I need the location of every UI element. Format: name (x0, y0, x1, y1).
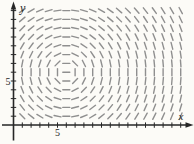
slope-mark (110, 78, 111, 85)
slope-mark (82, 78, 85, 84)
y-axis-arrow-icon (11, 2, 16, 10)
slope-mark (126, 25, 130, 31)
slope-mark (135, 25, 139, 31)
slope-mark (127, 78, 128, 85)
slope-mark (90, 43, 95, 48)
slope-mark (162, 113, 165, 119)
slope-mark (145, 78, 146, 85)
slope-mark (144, 95, 146, 102)
slope-mark (109, 87, 112, 94)
slope-mark (81, 87, 86, 92)
slope-mark (81, 52, 86, 57)
slope-mark (179, 25, 182, 32)
slope-mark (47, 60, 50, 66)
slope-mark (81, 18, 88, 20)
slope-mark (163, 78, 164, 85)
slope-mark (30, 60, 32, 67)
slope-mark (153, 25, 156, 31)
slope-mark (172, 78, 173, 85)
slope-mark (109, 96, 113, 102)
slope-mark (125, 8, 130, 13)
y-tick-label-5: 5 (6, 76, 11, 87)
slope-mark (46, 52, 51, 57)
slope-mark (135, 34, 138, 40)
slope-mark (153, 16, 157, 22)
slope-mark (90, 114, 96, 118)
slope-mark (135, 104, 138, 110)
direction-field-figure: y x 5 5 (0, 0, 194, 144)
slope-mark (180, 60, 181, 67)
slope-mark (72, 116, 79, 117)
slope-mark (126, 17, 131, 22)
y-axis-label: y (19, 1, 26, 15)
slope-mark (101, 78, 103, 85)
slope-mark (81, 35, 87, 38)
slope-mark (162, 95, 164, 102)
slope-mark (81, 10, 88, 12)
slope-mark (72, 45, 79, 47)
slope-mark (37, 35, 43, 39)
slope-mark (171, 34, 173, 41)
slope-mark (92, 78, 94, 85)
slope-mark (22, 60, 23, 67)
slope-mark (54, 88, 60, 91)
slope-mark (99, 105, 104, 110)
slope-mark (135, 17, 139, 23)
slope-mark (171, 25, 174, 31)
slope-mark (47, 78, 50, 84)
slope-mark (144, 34, 147, 40)
slope-mark (143, 8, 147, 14)
slope-mark (153, 34, 156, 41)
slope-mark (37, 114, 43, 118)
slope-mark (119, 60, 120, 67)
slope-mark (161, 16, 164, 22)
slope-mark (54, 28, 61, 29)
slope-mark (54, 107, 61, 109)
slope-mark (72, 28, 79, 29)
slope-mark (152, 8, 156, 14)
slope-mark (21, 96, 25, 102)
slope-mark (117, 26, 121, 31)
slope-mark (37, 9, 43, 12)
slope-mark (45, 10, 52, 12)
slope-mark (145, 51, 147, 58)
slope-mark (20, 34, 24, 39)
slope-mark (98, 9, 104, 12)
slope-mark (89, 9, 95, 12)
slope-mark (171, 86, 172, 93)
slope-mark (37, 43, 42, 48)
slope-mark (55, 61, 60, 66)
slope-mark (136, 86, 138, 93)
slope-mark (29, 35, 34, 40)
slope-mark (117, 114, 121, 119)
slope-mark (100, 51, 103, 57)
slope-mark (81, 44, 87, 48)
slope-mark (153, 42, 155, 49)
slope-mark (153, 104, 156, 111)
slope-mark (135, 95, 137, 102)
slope-mark (154, 78, 155, 85)
slope-mark (37, 26, 43, 30)
slope-mark (92, 60, 94, 67)
slope-mark (119, 78, 120, 85)
slope-mark (91, 52, 95, 58)
slope-mark (171, 104, 173, 111)
slope-mark (72, 10, 79, 11)
slope-mark (180, 78, 181, 85)
slope-mark (180, 51, 181, 58)
slope-mark (127, 51, 129, 58)
slope-mark (100, 87, 103, 93)
slope-mark (99, 35, 104, 40)
slope-mark (73, 61, 78, 66)
slope-mark (171, 51, 172, 58)
x-tick-label-5: 5 (55, 127, 60, 138)
slope-mark (37, 18, 43, 21)
slope-mark (55, 79, 60, 84)
slope-mark (81, 27, 88, 30)
slope-mark (90, 96, 95, 101)
slope-mark (90, 35, 96, 39)
vector-field-plot: y x 5 5 (0, 0, 194, 144)
slope-mark (154, 51, 155, 58)
slope-mark (108, 105, 112, 110)
slope-mark (127, 95, 130, 101)
